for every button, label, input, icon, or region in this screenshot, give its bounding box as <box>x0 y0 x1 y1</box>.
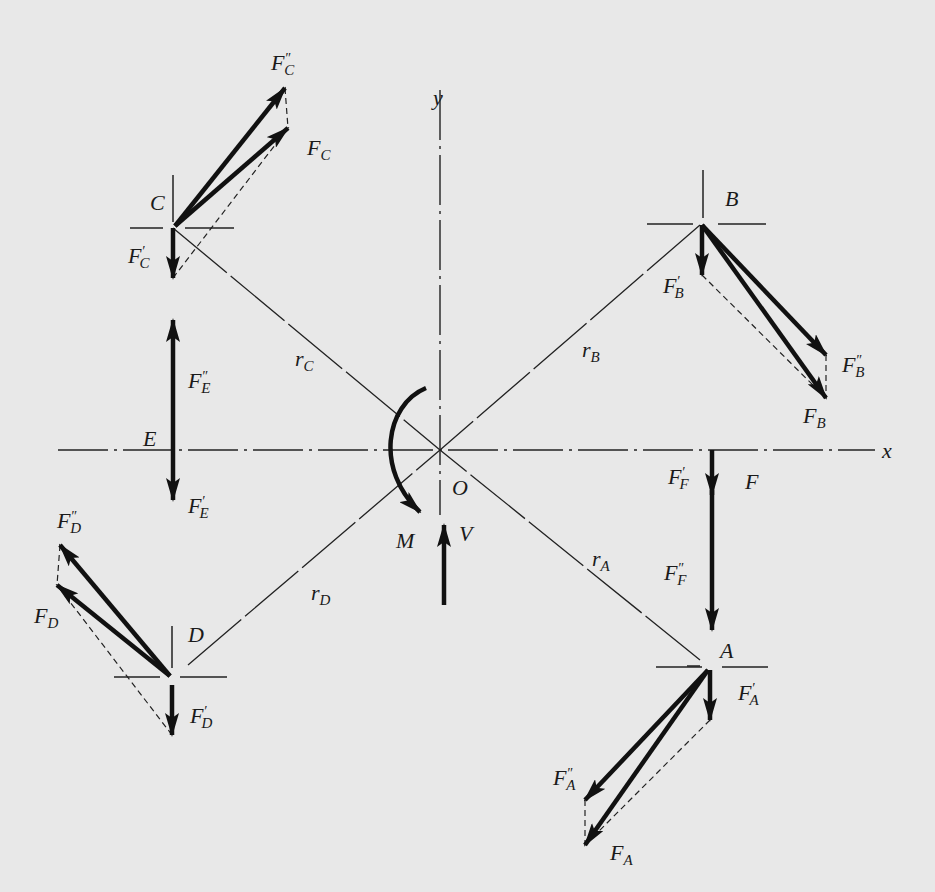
force-arrow-fc-secondary <box>175 88 285 226</box>
bolt-f-label: F <box>745 471 758 493</box>
force-label-fb-primary: F′B <box>663 275 684 301</box>
force-label-fa-resultant: FA <box>610 842 633 868</box>
force-label-fe-secondary: F″E <box>188 370 210 396</box>
radius-line-b <box>440 225 700 450</box>
radius-label-c: rC <box>295 348 314 374</box>
force-label-fa-secondary: F″A <box>553 767 575 793</box>
bolt-markers <box>114 170 768 677</box>
force-label-ff-secondary: F″F <box>664 562 686 588</box>
radius-line-c <box>173 228 440 450</box>
bolt-a-label: A <box>720 640 733 662</box>
force-label-fb-resultant: FB <box>803 405 826 431</box>
origin-label: O <box>452 477 468 499</box>
force-arrow-fa-secondary <box>585 670 708 800</box>
bolt-b-label: B <box>725 188 738 210</box>
bolt-e-label: E <box>143 428 156 450</box>
force-label-fd-primary: F′D <box>190 705 212 731</box>
bolt-c-label: C <box>150 192 165 214</box>
force-label-fd-secondary: F″D <box>57 510 81 536</box>
force-label-fa-primary: F′A <box>738 682 759 708</box>
radius-line-d <box>188 450 440 665</box>
force-label-ff-primary: F′F <box>668 466 689 492</box>
diagram-svg <box>0 0 935 892</box>
force-arrow-fd-secondary <box>60 545 170 676</box>
force-arrow-fb-resultant <box>702 225 826 398</box>
radius-label-d: rD <box>311 582 330 608</box>
force-label-fc-resultant: FC <box>307 137 330 163</box>
radius-line-a <box>440 450 700 660</box>
force-label-fb-secondary: F″B <box>842 354 864 380</box>
shear-label: V <box>459 523 472 545</box>
radius-label-a: rA <box>592 548 610 574</box>
y-axis-label: y <box>433 87 443 109</box>
moment-label: M <box>396 530 414 552</box>
force-arrow-fb-secondary <box>702 225 826 355</box>
force-arrow-fc-resultant <box>175 128 288 226</box>
force-label-fc-primary: F′C <box>128 245 150 271</box>
x-axis-label: x <box>882 440 892 462</box>
force-arrow-fa-resultant <box>585 670 708 845</box>
force-label-fe-primary: F′E <box>188 495 209 521</box>
force-arrow-fd-resultant <box>57 585 170 676</box>
force-label-fd-resultant: FD <box>34 605 58 631</box>
bolt-group-force-diagram: y x O M V C B E D A F rC rB rD rA F″C FC… <box>0 0 935 892</box>
bolt-d-label: D <box>188 624 204 646</box>
radius-label-b: rB <box>582 339 600 365</box>
force-label-fc-secondary: F″C <box>271 52 294 78</box>
